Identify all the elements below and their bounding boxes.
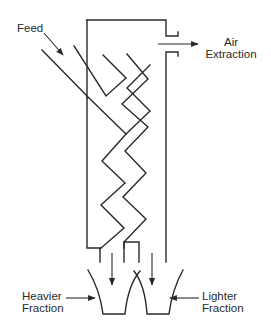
heavy-hopper-shape [88, 270, 140, 314]
column-housing-right-wall [166, 52, 178, 262]
heavier-fraction-label: Heavier Fraction [22, 290, 64, 314]
zigzag-inner-wall [126, 65, 150, 134]
feed-label: Feed [17, 22, 43, 34]
light-hopper-shape [134, 270, 183, 314]
air-extraction-label: Air Extraction [200, 36, 262, 60]
column-housing-left-wall-lower [87, 98, 100, 262]
column-housing-top [87, 20, 178, 36]
zigzag-right-wall [122, 54, 148, 262]
feed-arrow [44, 33, 63, 55]
feed-chute-inner-wall [74, 46, 126, 96]
lighter-fraction-label: Lighter Fraction [202, 290, 244, 314]
zigzag-inner-nozzle [124, 242, 139, 262]
air-classifier-diagram: Feed Air Extraction Heavier Fraction Lig… [0, 0, 271, 331]
zigzag-left-wall [100, 134, 126, 249]
